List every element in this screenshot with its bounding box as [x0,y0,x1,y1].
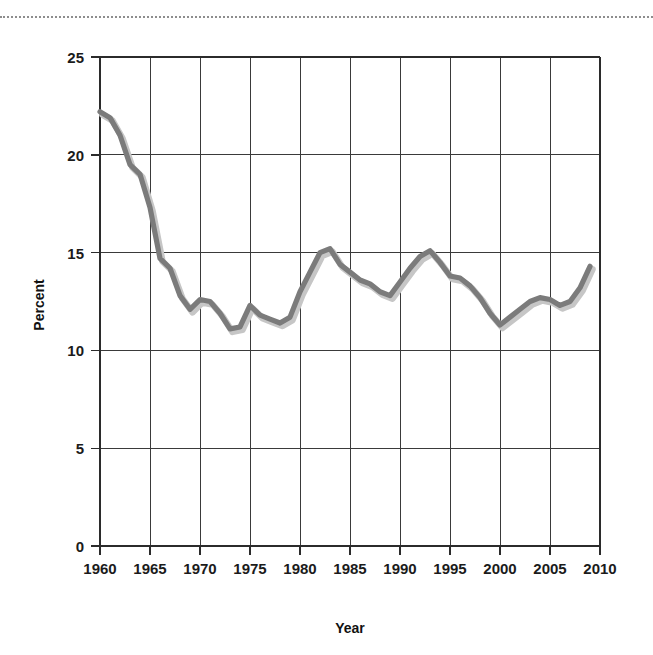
x-axis-tick-labels: 1960196519701975198019851990199520002005… [83,560,616,577]
vertical-gridlines [100,57,600,546]
xtick-label-1970: 1970 [183,560,216,577]
chart-canvas: 0510152025 19601965197019751980198519901… [0,0,653,655]
xtick-label-1990: 1990 [383,560,416,577]
xtick-label-1995: 1995 [433,560,466,577]
chart-page: 0510152025 19601965197019751980198519901… [0,0,653,655]
series-shadow-path [103,115,593,332]
line-chart-figure: 0510152025 19601965197019751980198519901… [0,0,653,655]
ytick-label-15: 15 [67,245,84,262]
data-series-line [100,112,593,332]
x-axis-title: Year [335,620,365,636]
xtick-label-1980: 1980 [283,560,316,577]
xtick-label-1985: 1985 [333,560,366,577]
ytick-label-20: 20 [67,147,84,164]
ytick-label-5: 5 [76,440,84,457]
ytick-label-10: 10 [67,342,84,359]
ytick-label-0: 0 [76,538,84,555]
series-percent-path [100,112,590,329]
ytick-label-25: 25 [67,49,84,66]
y-axis-title: Percent [31,279,47,331]
xtick-label-1975: 1975 [233,560,266,577]
y-axis-tick-labels: 0510152025 [67,49,84,555]
xtick-label-2010: 2010 [583,560,616,577]
xtick-label-1965: 1965 [133,560,166,577]
xtick-label-2000: 2000 [483,560,516,577]
xtick-label-2005: 2005 [533,560,566,577]
xtick-label-1960: 1960 [83,560,116,577]
